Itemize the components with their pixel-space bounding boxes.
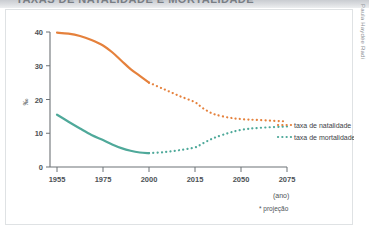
artist-credit-text: Paula Haydée Radi: [360, 4, 366, 59]
cut-off-title-strip: TAXAS DE NATALIDADE E MORTALIDADE: [0, 0, 369, 8]
x-axis-ticks: [57, 167, 287, 172]
artist-credit: Paula Haydée Radi: [355, 4, 367, 114]
projection-note: * projeção: [259, 205, 289, 213]
legend-label-natalidade: taxa de natalidade: [294, 122, 351, 129]
x-tick-label-2015: 2015: [187, 175, 204, 184]
x-tick-label-1955: 1955: [49, 175, 66, 184]
x-tick-label-2075: 2075: [279, 175, 296, 184]
x-tick-label-1975: 1975: [95, 175, 112, 184]
ghost-title-text: TAXAS DE NATALIDADE E MORTALIDADE: [16, 0, 254, 5]
series-mortalidade-projection: [149, 127, 287, 154]
y-tick-label-30: 30: [35, 62, 43, 71]
series-mortalidade-solid: [57, 115, 149, 153]
y-axis-title: ‰: [22, 99, 29, 106]
chart-svg: 40 30 20 10 0 ‰ 1955 1975 2000: [6, 10, 354, 226]
y-tick-label-10: 10: [35, 129, 43, 138]
y-tick-label-40: 40: [35, 28, 43, 37]
figure-frame: 40 30 20 10 0 ‰ 1955 1975 2000: [5, 9, 353, 225]
y-axis-ticks: [46, 32, 50, 167]
y-tick-label-20: 20: [35, 96, 43, 105]
y-tick-label-0: 0: [39, 163, 43, 172]
x-tick-label-2050: 2050: [233, 175, 250, 184]
legend-label-mortalidade: taxa de mortalidade: [294, 134, 354, 141]
x-axis-caption: (ano): [273, 192, 289, 200]
series-natalidade-solid: [57, 33, 149, 83]
chart-legend: taxa de natalidade taxa de mortalidade: [294, 122, 354, 141]
figure-page: TAXAS DE NATALIDADE E MORTALIDADE 40 30: [0, 0, 369, 235]
chart-plot-area: 40 30 20 10 0 ‰ 1955 1975 2000: [6, 10, 354, 226]
series-natalidade-projection: [149, 83, 287, 122]
x-tick-label-2000: 2000: [141, 175, 158, 184]
